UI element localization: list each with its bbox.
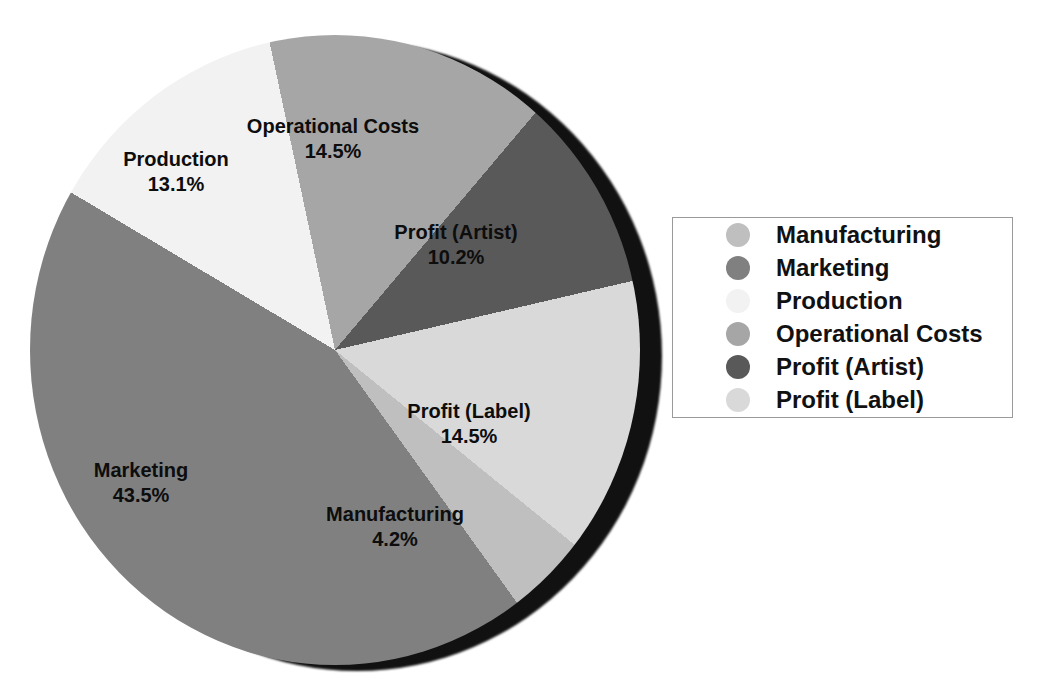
legend: Manufacturing Marketing Production Opera… <box>672 217 1013 418</box>
slice-percent: 10.2% <box>394 245 517 270</box>
slice-label-marketing: Marketing 43.5% <box>94 458 188 508</box>
slice-name: Production <box>123 147 229 172</box>
pie-chart-figure: Operational Costs 14.5% Profit (Artist) … <box>0 0 1052 698</box>
slice-label-profit-artist: Profit (Artist) 10.2% <box>394 220 517 270</box>
legend-label: Operational Costs <box>776 320 983 348</box>
slice-label-manufacturing: Manufacturing 4.2% <box>326 502 464 552</box>
legend-swatch-profit-label <box>726 388 750 412</box>
legend-swatch-marketing <box>726 256 750 280</box>
slice-name: Profit (Label) <box>407 399 530 424</box>
slice-percent: 13.1% <box>123 172 229 197</box>
legend-label: Profit (Artist) <box>776 353 924 381</box>
legend-swatch-profit-artist <box>726 355 750 379</box>
legend-item-production: Production <box>673 285 1012 318</box>
slice-label-operational-costs: Operational Costs 14.5% <box>247 114 419 164</box>
slice-name: Profit (Artist) <box>394 220 517 245</box>
slice-label-profit-label: Profit (Label) 14.5% <box>407 399 530 449</box>
legend-label: Marketing <box>776 254 889 282</box>
legend-label: Production <box>776 287 903 315</box>
legend-item-manufacturing: Manufacturing <box>673 219 1012 252</box>
pie-chart: Operational Costs 14.5% Profit (Artist) … <box>0 0 698 698</box>
slice-name: Operational Costs <box>247 114 419 139</box>
slice-percent: 4.2% <box>326 527 464 552</box>
legend-swatch-operational-costs <box>726 322 750 346</box>
slice-label-production: Production 13.1% <box>123 147 229 197</box>
slice-percent: 43.5% <box>94 483 188 508</box>
slice-percent: 14.5% <box>247 139 419 164</box>
legend-item-operational-costs: Operational Costs <box>673 318 1012 351</box>
legend-label: Manufacturing <box>776 221 941 249</box>
legend-item-marketing: Marketing <box>673 252 1012 285</box>
slice-percent: 14.5% <box>407 424 530 449</box>
legend-item-profit-label: Profit (Label) <box>673 384 1012 417</box>
legend-label: Profit (Label) <box>776 386 924 414</box>
legend-swatch-manufacturing <box>726 223 750 247</box>
legend-item-profit-artist: Profit (Artist) <box>673 351 1012 384</box>
slice-name: Marketing <box>94 458 188 483</box>
slice-name: Manufacturing <box>326 502 464 527</box>
legend-swatch-production <box>726 289 750 313</box>
